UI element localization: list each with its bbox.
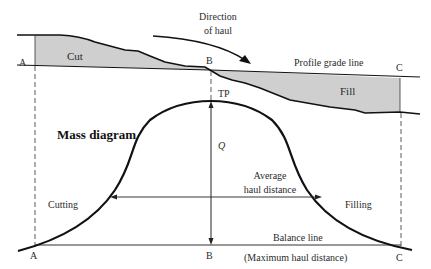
average-haul-label-line2: haul distance bbox=[225, 184, 315, 195]
balance-line-label: Balance line bbox=[273, 232, 323, 243]
cut-label: Cut bbox=[67, 51, 83, 62]
profile-grade-line-label: Profile grade line bbox=[294, 57, 363, 68]
filling-label: Filling bbox=[345, 199, 372, 210]
direction-of-haul-label-line2: of haul bbox=[183, 25, 253, 36]
mass-diagram-title: Mass diagram bbox=[57, 129, 136, 140]
mass-diagram-figure: A Cut Direction of haul B Profile grade … bbox=[0, 0, 431, 269]
direction-of-haul-arrow bbox=[153, 36, 245, 60]
cut-area bbox=[35, 35, 210, 70]
mass-curve bbox=[18, 101, 412, 251]
point-b-profile-label: B bbox=[206, 55, 213, 66]
fill-area bbox=[210, 70, 400, 113]
point-a-profile-label: A bbox=[19, 57, 26, 68]
average-haul-label-line1: Average bbox=[230, 170, 310, 181]
q-ordinate-label: Q bbox=[218, 140, 225, 151]
point-b-mass-label: B bbox=[206, 250, 213, 261]
point-c-profile-label: C bbox=[396, 62, 403, 73]
max-haul-distance-label: (Maximum haul distance) bbox=[244, 252, 347, 263]
point-c-mass-label: C bbox=[396, 252, 403, 263]
direction-of-haul-label-line1: Direction bbox=[183, 11, 253, 22]
turning-point-label: TP bbox=[218, 88, 230, 99]
cutting-label: Cutting bbox=[48, 199, 78, 210]
point-a-mass-label: A bbox=[30, 250, 37, 261]
fill-label: Fill bbox=[340, 86, 355, 97]
